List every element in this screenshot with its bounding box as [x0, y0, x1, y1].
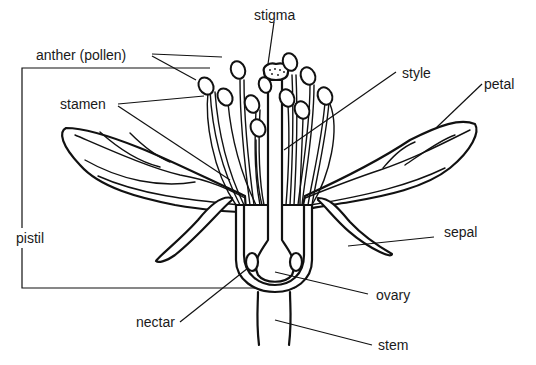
label-stamen: stamen: [60, 96, 106, 112]
label-style: style: [402, 65, 431, 81]
label-anther: anther (pollen): [36, 47, 126, 63]
flower-diagram: anther (pollen) stigma style petal stame…: [0, 0, 536, 365]
stem: [257, 292, 290, 345]
label-ovary: ovary: [376, 287, 410, 303]
label-nectar: nectar: [136, 314, 175, 330]
label-stigma: stigma: [254, 7, 295, 23]
label-sepal: sepal: [444, 224, 477, 240]
label-petal: petal: [484, 76, 514, 92]
label-pistil: pistil: [16, 230, 44, 246]
label-stem: stem: [378, 337, 408, 353]
